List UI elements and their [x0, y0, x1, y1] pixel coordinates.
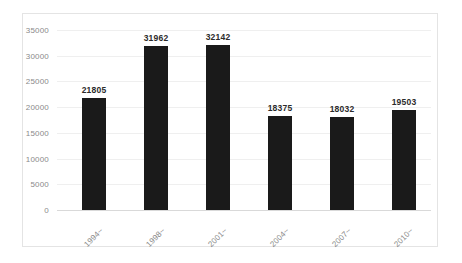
x-axis-category-label: 2007~	[311, 233, 373, 242]
x-axis-category-label: 2004~	[249, 233, 311, 242]
x-axis-category-label-text: 2004~	[269, 226, 292, 249]
y-axis-tick-label: 30000	[3, 51, 49, 60]
bar-group: 32142	[187, 43, 249, 210]
x-axis-category-label: 1994~	[63, 233, 125, 242]
bar[interactable]	[392, 110, 416, 210]
bar-group: 19503	[373, 108, 435, 210]
bar[interactable]	[330, 117, 354, 210]
y-axis-tick-label: 0	[3, 206, 49, 215]
bar-value-label: 19503	[373, 97, 435, 107]
chart-frame: 05000100001500020000250003000035000 2180…	[22, 13, 438, 247]
bar-group: 18375	[249, 114, 311, 211]
x-axis-category-label-text: 2010~	[393, 226, 416, 249]
y-axis-tick-label: 10000	[3, 154, 49, 163]
bar[interactable]	[268, 116, 292, 211]
bar-value-label: 18375	[249, 103, 311, 113]
bar-value-label: 31962	[125, 33, 187, 43]
y-axis-tick-label: 20000	[3, 103, 49, 112]
x-axis-category-label-text: 1998~	[145, 226, 168, 249]
y-axis-tick-label: 5000	[3, 180, 49, 189]
bar[interactable]	[206, 45, 230, 210]
y-axis-tick-label: 25000	[3, 77, 49, 86]
axis-baseline	[57, 210, 431, 211]
y-axis-tick-label: 15000	[3, 128, 49, 137]
x-axis-category-label: 1998~	[125, 233, 187, 242]
x-axis-category-label-text: 2007~	[331, 226, 354, 249]
bar[interactable]	[82, 98, 106, 210]
x-axis-category-label: 2001~	[187, 233, 249, 242]
bar-group: 31962	[125, 44, 187, 210]
bar-value-label: 18032	[311, 104, 373, 114]
plot-area: 05000100001500020000250003000035000 2180…	[23, 14, 439, 248]
bar[interactable]	[144, 46, 168, 210]
bar-group: 21805	[63, 96, 125, 210]
x-axis-category-label: 2010~	[373, 233, 435, 242]
x-axis-category-label-text: 2001~	[207, 226, 230, 249]
x-axis-category-label-text: 1994~	[83, 226, 106, 249]
bar-value-label: 32142	[187, 32, 249, 42]
y-axis-tick-label: 35000	[3, 26, 49, 35]
bar-group: 18032	[311, 115, 373, 210]
bar-value-label: 21805	[63, 85, 125, 95]
